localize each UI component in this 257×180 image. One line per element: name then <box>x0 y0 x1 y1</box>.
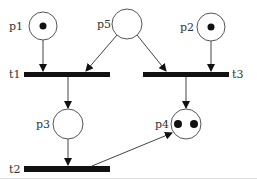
place-p5: p5 <box>97 9 142 39</box>
arc-p5-t1 <box>86 35 117 71</box>
place-p1: p1 <box>9 12 57 40</box>
transition-label-t2: t2 <box>9 163 20 176</box>
place-p2: p2 <box>180 13 225 41</box>
place-p4: p4 <box>155 109 201 139</box>
token <box>174 120 182 128</box>
transition-t3: t3 <box>143 68 243 81</box>
place-label-p3: p3 <box>36 118 50 131</box>
petri-net-diagram: p1 p5 p2 p3 p4 t1 t3 t2 <box>0 0 257 180</box>
place-label-p2: p2 <box>180 21 194 34</box>
transition-label-t1: t1 <box>9 68 20 81</box>
arc-t2-p4 <box>92 133 172 166</box>
place-p3: p3 <box>36 109 83 139</box>
arc-p5-t3 <box>137 35 166 71</box>
transition-label-t3: t3 <box>232 68 243 81</box>
place-label-p5: p5 <box>97 18 111 31</box>
token <box>40 23 47 30</box>
place-label-p1: p1 <box>9 20 23 33</box>
token <box>208 24 215 31</box>
token <box>190 120 198 128</box>
transition-t1: t1 <box>9 68 110 81</box>
place-label-p4: p4 <box>155 118 169 131</box>
